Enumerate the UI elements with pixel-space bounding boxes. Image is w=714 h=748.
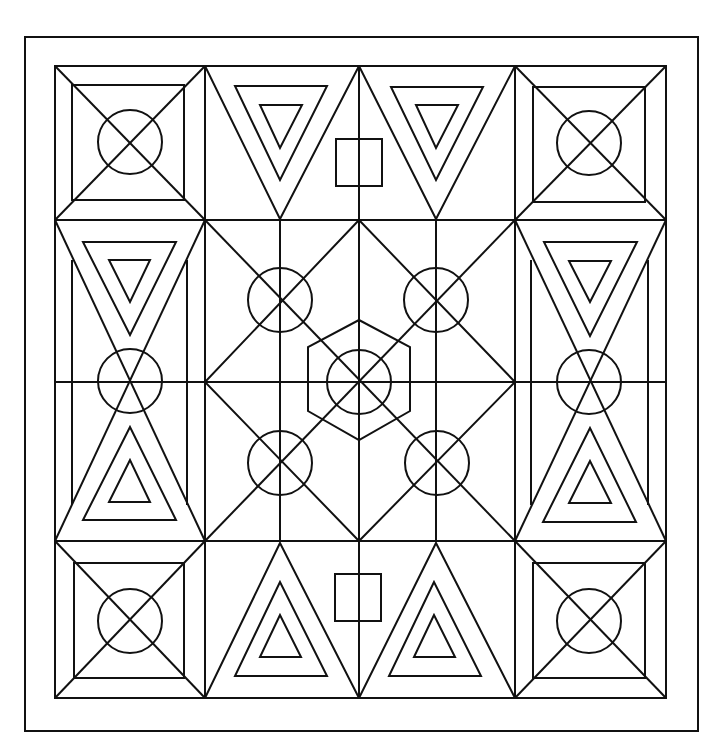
side-panel-right <box>515 220 666 541</box>
corner-tile-top-right <box>515 66 666 220</box>
corner-tile-bottom-left <box>55 541 205 698</box>
corner-tile-bottom-right <box>515 541 666 698</box>
side-panel-left <box>55 220 205 541</box>
bottom-triangle-set-right <box>359 543 515 698</box>
pattern-canvas <box>0 0 714 748</box>
circle-shape <box>98 589 162 653</box>
circle-shape <box>557 111 621 175</box>
corner-tile-top-left <box>55 66 205 220</box>
